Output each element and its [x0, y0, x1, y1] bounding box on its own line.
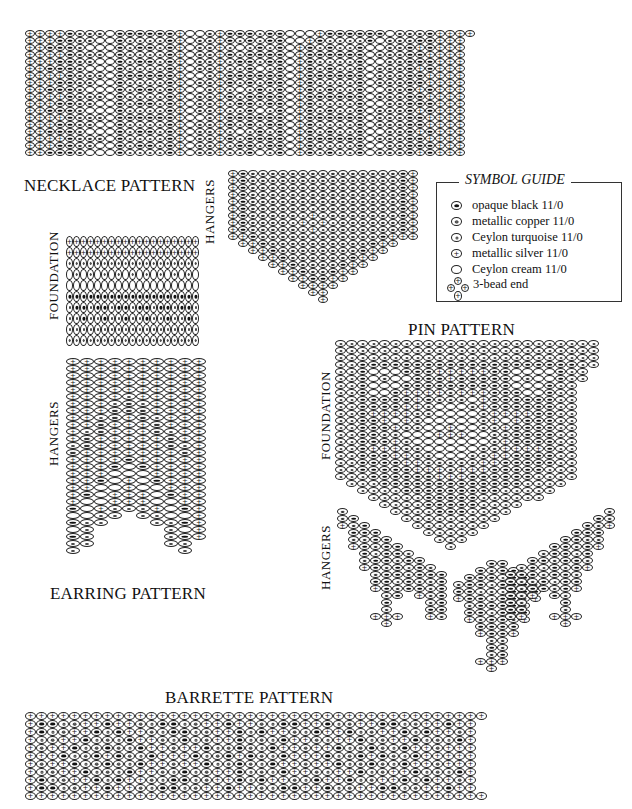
metallic-copper-bead: [80, 435, 94, 442]
ceylon-turquoise-bead: [245, 728, 256, 736]
opaque-black-bead: [73, 291, 80, 302]
opaque-black-bead: [150, 291, 157, 302]
ceylon-turquoise-bead: [135, 752, 146, 760]
ceylon-turquoise-bead: [522, 487, 533, 494]
metallic-copper-bead: [150, 335, 157, 346]
opaque-black-bead: [311, 728, 322, 736]
metallic-silver-bead: [228, 233, 238, 240]
metallic-copper-bead: [338, 198, 348, 205]
ceylon-cream-bead: [105, 79, 115, 86]
opaque-black-bead: [115, 93, 125, 100]
ceylon-turquoise-bead: [379, 340, 390, 347]
metallic-silver-bead: [410, 792, 421, 800]
ceylon-turquoise-bead: [445, 522, 456, 529]
opaque-black-bead: [357, 389, 368, 396]
opaque-black-bead: [467, 494, 478, 501]
ceylon-cream-bead: [544, 375, 555, 382]
ceylon-turquoise-bead: [555, 410, 566, 417]
ceylon-cream-bead: [105, 114, 115, 121]
ceylon-turquoise-bead: [225, 149, 235, 156]
metallic-copper-bead: [385, 114, 395, 121]
metallic-copper-bead: [328, 240, 338, 247]
opaque-black-bead: [115, 121, 125, 128]
metallic-silver-bead: [94, 505, 108, 512]
metallic-silver-bead: [179, 792, 190, 800]
opaque-black-bead: [355, 79, 365, 86]
ceylon-turquoise-bead: [357, 480, 368, 487]
ceylon-cream-bead: [401, 375, 412, 382]
ceylon-cream-bead: [456, 410, 467, 417]
metallic-copper-bead: [278, 177, 288, 184]
ceylon-turquoise-bead: [366, 768, 377, 776]
metallic-copper-bead: [205, 44, 215, 51]
metallic-silver-bead: [344, 792, 355, 800]
symbol-guide-title: SYMBOL GUIDE: [459, 172, 571, 188]
opaque-black-bead: [165, 58, 175, 65]
ceylon-turquoise-bead: [318, 226, 328, 233]
metallic-copper-bead: [195, 44, 205, 51]
metallic-silver-bead: [337, 522, 348, 529]
ceylon-turquoise-bead: [533, 480, 544, 487]
opaque-black-bead: [235, 58, 245, 65]
ceylon-cream-bead: [185, 93, 195, 100]
metallic-copper-bead: [256, 736, 267, 744]
metallic-copper-bead: [298, 205, 308, 212]
opaque-black-bead: [436, 599, 447, 606]
ceylon-cream-bead: [87, 280, 94, 291]
ceylon-turquoise-bead: [577, 368, 588, 375]
ceylon-turquoise-bead: [489, 508, 500, 515]
opaque-black-bead: [80, 736, 91, 744]
metallic-copper-bead: [278, 226, 288, 233]
metallic-copper-bead: [157, 768, 168, 776]
opaque-black-bead: [164, 291, 171, 302]
ceylon-turquoise-bead: [157, 776, 168, 784]
metallic-copper-bead: [201, 728, 212, 736]
ceylon-cream-bead: [390, 375, 401, 382]
opaque-black-bead: [157, 720, 168, 728]
ceylon-turquoise-bead: [486, 581, 497, 588]
opaque-black-bead: [357, 361, 368, 368]
opaque-black-bead: [265, 37, 275, 44]
ceylon-turquoise-bead: [225, 58, 235, 65]
opaque-black-bead: [245, 114, 255, 121]
metallic-silver-bead: [415, 128, 425, 135]
ceylon-cream-bead: [164, 512, 178, 519]
opaque-black-bead: [143, 302, 150, 313]
ceylon-cream-bead: [95, 128, 105, 135]
metallic-copper-bead: [75, 149, 85, 156]
ceylon-turquoise-bead: [164, 540, 178, 547]
metallic-copper-bead: [375, 149, 385, 156]
metallic-silver-bead: [157, 792, 168, 800]
opaque-black-bead: [379, 480, 390, 487]
ceylon-turquoise-bead: [235, 135, 245, 142]
ceylon-turquoise-bead: [125, 121, 135, 128]
metallic-silver-bead: [201, 720, 212, 728]
opaque-black-bead: [135, 142, 145, 149]
ceylon-turquoise-bead: [566, 375, 577, 382]
opaque-black-bead: [275, 149, 285, 156]
opaque-black-bead: [165, 142, 175, 149]
ceylon-turquoise-bead: [155, 86, 165, 93]
ceylon-cream-bead: [105, 30, 115, 37]
metallic-copper-bead: [195, 65, 205, 72]
metallic-copper-bead: [379, 431, 390, 438]
opaque-black-bead: [359, 543, 370, 550]
metallic-silver-bead: [355, 792, 366, 800]
opaque-black-bead: [333, 744, 344, 752]
ceylon-cream-bead: [185, 72, 195, 79]
opaque-black-bead: [425, 30, 435, 37]
ceylon-turquoise-bead: [308, 233, 318, 240]
metallic-copper-bead: [348, 240, 358, 247]
opaque-black-bead: [436, 606, 447, 613]
metallic-silver-bead: [267, 728, 278, 736]
ceylon-turquoise-bead: [588, 354, 599, 361]
ceylon-turquoise-bead: [346, 452, 357, 459]
ceylon-turquoise-bead: [522, 494, 533, 501]
opaque-black-bead: [425, 58, 435, 65]
ceylon-turquoise-bead: [368, 340, 379, 347]
ceylon-cream-bead: [235, 44, 245, 51]
ceylon-turquoise-bead: [108, 313, 115, 324]
opaque-black-bead: [129, 291, 136, 302]
ceylon-cream-bead: [379, 368, 390, 375]
opaque-black-bead: [593, 515, 604, 522]
